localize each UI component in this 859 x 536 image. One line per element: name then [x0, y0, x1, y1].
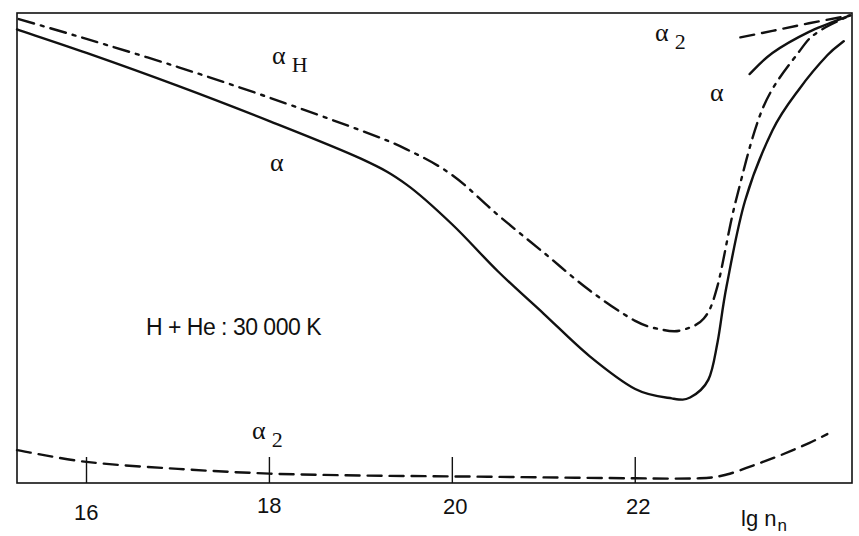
label-alpha-top-symbol: α	[710, 78, 724, 107]
label-alpha-H-subscript: H	[292, 52, 308, 77]
x-tick-label-22: 22	[626, 494, 650, 520]
annotation-text: H + He : 30 000 K	[146, 314, 321, 341]
label-alpha: α	[270, 148, 284, 178]
series-line-4	[750, 15, 851, 74]
x-tick-label-20: 20	[443, 494, 467, 520]
series-line-3	[740, 15, 850, 37]
label-alpha-2-top: α2	[655, 18, 686, 48]
label-alpha-H-symbol: α	[272, 41, 286, 70]
series-line-2	[17, 434, 827, 479]
label-alpha-2-top-subscript: 2	[675, 29, 686, 54]
label-alpha-2-bottom-symbol: α	[252, 416, 266, 445]
x-axis-ticks	[87, 457, 636, 483]
label-alpha-H: αH	[272, 41, 308, 71]
label-alpha-top: α	[710, 78, 724, 108]
label-alpha-2-bottom-subscript: 2	[272, 427, 283, 452]
label-alpha-symbol: α	[270, 148, 284, 177]
chart: 16 18 20 22 lg nn αH α α2 α α2 H + He : …	[0, 0, 859, 536]
x-tick-label-16: 16	[74, 500, 98, 526]
x-axis-label-main: lg n	[741, 506, 776, 531]
x-tick-label-18: 18	[257, 493, 281, 519]
x-axis-label-subscript: n	[777, 516, 786, 535]
plot-frame	[17, 13, 852, 483]
x-axis-label: lg nn	[741, 506, 787, 532]
series-group	[17, 15, 850, 478]
label-alpha-2-top-symbol: α	[655, 18, 669, 47]
label-alpha-2-bottom: α2	[252, 416, 283, 446]
plot-area	[0, 0, 859, 536]
series-line-0	[19, 15, 850, 331]
